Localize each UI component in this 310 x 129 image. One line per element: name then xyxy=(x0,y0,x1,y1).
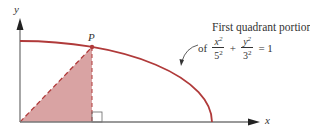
fraction-y: y2 32 xyxy=(241,34,254,62)
y-axis-label: y xyxy=(14,3,19,15)
exp: 2 xyxy=(248,35,252,43)
y-axis-arrow-icon xyxy=(17,18,24,30)
pointer-arrowhead-icon xyxy=(180,59,185,66)
plus-sign: + xyxy=(230,42,236,54)
point-p-label: P xyxy=(88,31,95,43)
pointer-arrow xyxy=(182,45,198,61)
fraction-x: x2 52 xyxy=(212,34,225,62)
exp: 2 xyxy=(219,49,223,57)
exp: 2 xyxy=(219,35,223,43)
x-axis-label: x xyxy=(265,114,270,126)
ellipse-equation: of x2 52 + y2 32 = 1 xyxy=(198,34,273,62)
equals-one: = 1 xyxy=(258,42,272,54)
exp: 2 xyxy=(248,49,252,57)
caption: First quadrant portion xyxy=(212,21,310,33)
point-p xyxy=(90,45,94,49)
x-axis-arrow-icon xyxy=(248,119,260,126)
equation-prefix: of xyxy=(198,42,207,54)
diagram-canvas xyxy=(0,0,310,129)
right-angle-marker xyxy=(92,112,102,122)
